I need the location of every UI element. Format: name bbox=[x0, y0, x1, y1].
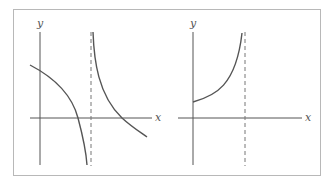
left-y-label: y bbox=[36, 17, 44, 30]
left-curve-branch-2 bbox=[93, 32, 147, 137]
right-x-label: x bbox=[305, 111, 312, 124]
diagram-canvas: y x y x bbox=[0, 0, 333, 185]
left-curve-branch-1 bbox=[30, 65, 87, 165]
left-x-label: x bbox=[155, 111, 162, 124]
right-curve bbox=[193, 33, 242, 102]
right-panel: y x bbox=[178, 17, 312, 166]
right-y-label: y bbox=[189, 17, 197, 30]
left-panel: y x bbox=[30, 17, 162, 166]
